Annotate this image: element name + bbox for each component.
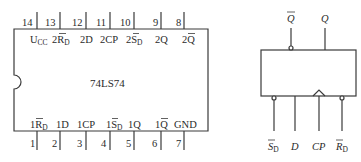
output-label-q: Q — [321, 13, 329, 24]
pin-label-1sd: 1SD — [106, 119, 123, 132]
pin-number: 8 — [176, 17, 181, 28]
bottom-pin-numbers: 1 2 3 4 5 6 7 — [30, 138, 181, 149]
pin-label-1d: 1D — [56, 119, 69, 130]
pin-label-2q: 2Q — [155, 34, 168, 45]
pin-number: 7 — [176, 138, 181, 149]
pin-label-1rd: 1RD — [30, 119, 48, 132]
pin-label-ucc: UCC — [30, 34, 48, 47]
inversion-bubble — [340, 96, 344, 100]
pin-number: 14 — [22, 17, 33, 28]
pin-number: 4 — [101, 138, 107, 149]
diagram-canvas: 14 13 12 11 10 9 8 UCC 2RD 2D 2CP 2SD 2Q… — [0, 0, 361, 162]
pin-number: 11 — [96, 17, 106, 28]
pin-number: 5 — [126, 138, 131, 149]
dff-symbol — [261, 28, 356, 131]
top-pin-labels: UCC 2RD 2D 2CP 2SD 2Q 2Q — [30, 34, 195, 48]
top-pin-numbers: 14 13 12 11 10 9 8 — [22, 17, 181, 28]
pin-label-2rd: 2RD — [52, 34, 70, 47]
pin-label-2qbar: 2Q — [182, 34, 195, 45]
pin-number: 13 — [45, 17, 56, 28]
pin-label-2d: 2D — [80, 34, 93, 45]
input-label-cp: CP — [312, 141, 326, 152]
pin-number: 2 — [52, 138, 57, 149]
inversion-bubble — [289, 46, 293, 50]
inversion-bubble — [272, 96, 276, 100]
pin-number: 3 — [77, 138, 82, 149]
input-label-d: D — [290, 141, 299, 152]
clock-triangle — [313, 90, 325, 96]
pin-label-2sd: 2SD — [126, 34, 143, 47]
output-label-qbar: Q — [287, 13, 295, 24]
pin-number: 6 — [152, 138, 157, 149]
pin-number: 10 — [120, 17, 131, 28]
chip-name: 74LS74 — [90, 77, 125, 89]
pin-number: 12 — [72, 17, 83, 28]
input-label-sd: SD — [268, 141, 279, 154]
bottom-pin-labels: 1RD 1D 1CP 1SD 1Q 1Q GND — [30, 119, 197, 133]
pin-label-1cp: 1CP — [77, 119, 95, 130]
pin-label-gnd: GND — [174, 119, 197, 130]
input-label-rd: RD — [335, 141, 348, 154]
pin-number: 1 — [30, 138, 35, 149]
symbol-body — [261, 50, 356, 96]
pin-label-1qbar: 1Q — [155, 119, 168, 130]
pin-label-1q: 1Q — [128, 119, 141, 130]
pin-label-2cp: 2CP — [100, 34, 118, 45]
pin-number: 9 — [153, 17, 158, 28]
